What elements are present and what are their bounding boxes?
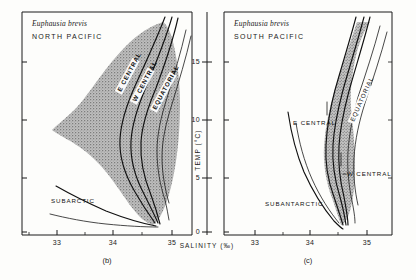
panel-c-letter: (c) — [304, 256, 313, 265]
panel-b-species: Euphausia brevis — [31, 19, 87, 28]
panel-b-xtick-33: 33 — [53, 239, 61, 246]
ytick-15: 15 — [192, 58, 200, 65]
panel-b-xtick-34: 34 — [109, 239, 117, 246]
panel-c-xtick-33: 33 — [251, 239, 259, 246]
y-axis-title: TEMP (°C) — [194, 129, 202, 170]
panel-c-xtick-35: 35 — [363, 239, 371, 246]
label-subarctic-b: SUBARCTIC — [51, 197, 95, 204]
panel-c-region: SOUTH PACIFIC — [234, 33, 304, 40]
panel-c-species: Euphausia brevis — [233, 19, 289, 28]
ytick-5: 5 — [196, 174, 200, 181]
label-subantarctic-c: SUBANTARCTIC — [265, 200, 323, 207]
panel-b-region: NORTH PACIFIC — [32, 33, 103, 40]
ytick-10: 10 — [192, 116, 200, 123]
panel-c-xtick-34: 34 — [306, 239, 314, 246]
ytick-0: 0 — [196, 228, 200, 235]
panel-b-letter: (b) — [102, 256, 112, 265]
figure-root: E CENTRAL W CENTRAL EQUATORIAL SUBARCTIC… — [0, 0, 416, 280]
ts-diagram-svg: E CENTRAL W CENTRAL EQUATORIAL SUBARCTIC… — [0, 0, 416, 280]
x-axis-title: SALINITY (‰) — [180, 242, 235, 250]
label-w-central-c: W CENTRAL — [347, 170, 392, 177]
label-e-central-c: E CENTRAL — [293, 119, 336, 126]
panel-b-xtick-35: 35 — [168, 239, 176, 246]
